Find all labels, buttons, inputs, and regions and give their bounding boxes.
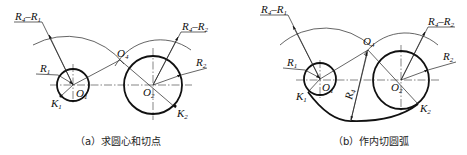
- label-r2: R2: [195, 56, 207, 70]
- o4-o2-k2-line: [368, 50, 418, 104]
- caption-b: （b）作内切圆弧: [333, 135, 409, 147]
- arc-r4-minus-r1: [33, 36, 124, 64]
- label-r4-minus-r2: R4–R2: [427, 15, 454, 29]
- label-r4-minus-r2: R4–R2: [181, 20, 208, 34]
- label-o1: O1: [76, 87, 87, 101]
- r4-r2-arrow: [153, 37, 178, 85]
- o1-o4-line: [73, 60, 120, 85]
- k1-point: [59, 94, 62, 97]
- o1-k1-line: [308, 79, 320, 92]
- r4-arrow-up: [351, 52, 367, 120]
- diagram-canvas: R4–R1 R4–R2 R1 R2 O1 O2 O4 K1 K2 （a）求圆心和…: [0, 0, 467, 155]
- caption-a: （a）求圆心和切点: [75, 136, 161, 147]
- panel-a: R4–R1 R4–R2 R1 R2 O1 O2 O4 K1 K2 （a）求圆心和…: [14, 10, 208, 147]
- label-o1: O1: [322, 81, 333, 95]
- arc-r4-minus-r1: [280, 28, 372, 47]
- o1-k1-line: [61, 85, 73, 96]
- label-o4: O4: [117, 47, 129, 61]
- label-k2: K2: [176, 107, 188, 121]
- label-r4-minus-r1: R4–R1: [14, 10, 41, 24]
- label-k1: K1: [295, 90, 307, 104]
- r4-r1-arrow: [49, 35, 73, 85]
- label-r4-minus-r1: R4–R1: [260, 3, 287, 17]
- inner-tangent-arc-r4: [308, 92, 418, 121]
- r1-arrow: [58, 75, 73, 84]
- label-r1: R1: [286, 56, 297, 70]
- label-r1: R1: [39, 62, 50, 76]
- label-o4: O4: [363, 35, 375, 49]
- label-k2: K2: [419, 102, 431, 116]
- label-k1: K1: [50, 97, 62, 111]
- label-r2: R2: [442, 50, 454, 64]
- panel-b: R4–R1 R4–R2 R1 R2 O1 O2 O4 K1 K2 R4 （b）作…: [260, 3, 456, 147]
